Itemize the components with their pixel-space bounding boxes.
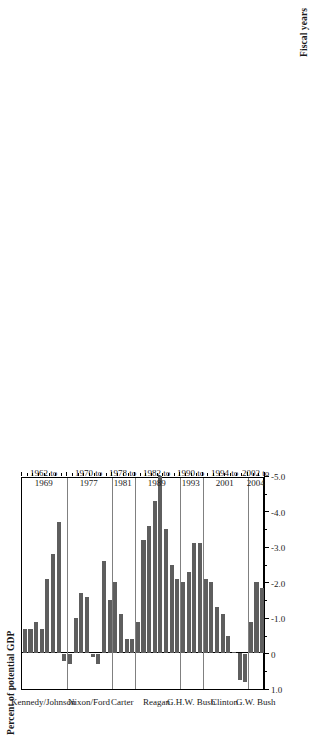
bar <box>130 639 134 653</box>
category-axis-minor-tick <box>185 473 186 476</box>
category-axis-minor-tick <box>111 473 112 476</box>
president-group-label: G.W. Bush <box>236 697 275 707</box>
value-axis-minor-tick <box>264 494 267 495</box>
category-axis-minor-tick <box>145 473 146 476</box>
bar <box>40 629 44 654</box>
bar <box>34 622 38 654</box>
bar <box>221 614 225 653</box>
category-axis-minor-tick <box>219 473 220 476</box>
president-group-label: Carter <box>111 697 134 707</box>
bar <box>153 501 157 654</box>
rotated-figure-stage: Percent of potential GDP Fiscal years Ke… <box>0 0 313 741</box>
president-group-label: Clinton <box>211 697 238 707</box>
category-axis-minor-tick <box>44 473 45 476</box>
category-axis-minor-tick <box>61 473 62 476</box>
category-axis-minor-tick <box>224 473 225 476</box>
span-line-2: 2001 <box>216 478 234 488</box>
category-axis-minor-tick <box>27 473 28 476</box>
value-axis-line <box>264 477 265 690</box>
category-axis-minor-tick <box>117 473 118 476</box>
value-axis-tick <box>264 618 269 619</box>
bar <box>147 526 151 654</box>
bar <box>113 583 117 654</box>
plot-area <box>21 477 264 690</box>
category-axis-minor-tick <box>162 473 163 476</box>
bar <box>119 614 123 653</box>
value-axis-minor-tick <box>264 600 267 601</box>
value-axis-minor-tick <box>264 671 267 672</box>
bar <box>62 654 66 661</box>
category-axis-minor-tick <box>83 473 84 476</box>
fiscal-year-span-label: 1982 to1989 <box>143 468 170 488</box>
value-axis-minor-tick <box>264 565 267 566</box>
value-axis-tick-label: -4.0 <box>271 508 285 518</box>
category-axis-minor-tick <box>179 473 180 476</box>
bar <box>175 579 179 654</box>
value-axis-tick <box>264 512 269 513</box>
category-axis-minor-tick <box>49 473 50 476</box>
bar <box>192 543 196 653</box>
category-axis-minor-tick <box>21 473 22 476</box>
category-axis-title: Fiscal years <box>299 8 309 57</box>
bar <box>226 636 230 654</box>
span-line-2: 2004 <box>247 478 265 488</box>
value-axis-tick <box>264 654 269 655</box>
fiscal-year-span-label: 1962 to1969 <box>30 468 57 488</box>
bar <box>45 579 49 654</box>
bar <box>85 597 89 654</box>
bar <box>23 629 27 654</box>
category-axis-minor-tick <box>106 473 107 476</box>
value-axis-tick <box>264 547 269 548</box>
bar <box>254 583 258 654</box>
category-axis-minor-tick <box>202 473 203 476</box>
category-axis-minor-tick <box>157 473 158 476</box>
category-axis-minor-tick <box>38 473 39 476</box>
value-axis-tick-label: -5.0 <box>271 473 285 483</box>
category-axis-minor-tick <box>213 473 214 476</box>
bar <box>158 476 162 654</box>
bar <box>136 622 140 654</box>
value-axis-tick <box>264 689 269 690</box>
group-separator <box>248 478 249 689</box>
bar <box>243 654 247 682</box>
category-axis-minor-tick <box>72 473 73 476</box>
bar <box>102 561 106 653</box>
category-axis-minor-tick <box>78 473 79 476</box>
bar <box>51 554 55 653</box>
president-group-label: G.H.W. Bush <box>167 697 215 707</box>
category-axis-minor-tick <box>55 473 56 476</box>
fiscal-year-span-label: 1990 to1993 <box>177 468 204 488</box>
category-axis-minor-tick <box>236 473 237 476</box>
bar <box>91 654 95 658</box>
category-axis-minor-tick <box>32 473 33 476</box>
category-axis-minor-tick <box>151 473 152 476</box>
bar <box>170 565 174 654</box>
span-line-2: 1993 <box>182 478 200 488</box>
value-axis-minor-tick <box>264 529 267 530</box>
category-axis-minor-tick <box>140 473 141 476</box>
bar <box>141 540 145 654</box>
category-axis-minor-tick <box>94 473 95 476</box>
bar <box>198 543 202 653</box>
category-axis-minor-tick <box>100 473 101 476</box>
bar <box>164 529 168 653</box>
value-axis-tick-label: 1.0 <box>271 686 282 696</box>
fiscal-year-span-label: 1970 to1977 <box>75 468 102 488</box>
category-axis-minor-tick <box>191 473 192 476</box>
value-axis-minor-tick <box>264 636 267 637</box>
bar <box>232 653 236 654</box>
category-axis-minor-tick <box>174 473 175 476</box>
bar <box>181 583 185 654</box>
bar <box>249 622 253 654</box>
category-axis-minor-tick <box>196 473 197 476</box>
category-axis-minor-tick <box>253 473 254 476</box>
bar <box>79 593 83 653</box>
bar <box>209 583 213 654</box>
fiscal-year-span-label: 1994 to2001 <box>211 468 238 488</box>
value-axis-tick <box>264 583 269 584</box>
fiscal-year-span-label: 1978 to1981 <box>109 468 136 488</box>
value-axis-tick-label: -3.0 <box>271 544 285 554</box>
span-line-2: 1981 <box>114 478 132 488</box>
president-group-label: Kennedy/Johnson <box>11 697 76 707</box>
span-line-2: 1989 <box>148 478 166 488</box>
